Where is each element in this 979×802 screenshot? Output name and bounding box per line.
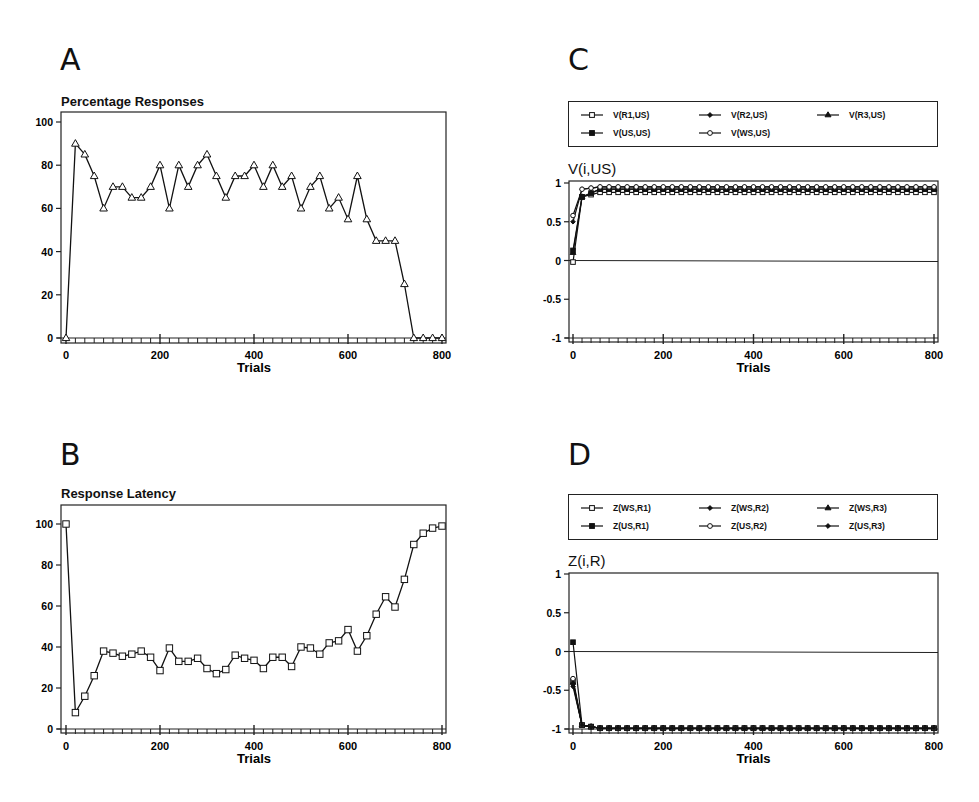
square-marker-icon	[279, 654, 285, 660]
triangle-marker-icon	[438, 334, 446, 341]
x-tick-label: 800	[925, 740, 943, 752]
circle-marker-icon	[841, 185, 846, 190]
square-marker-icon	[63, 521, 69, 527]
circle-marker-icon	[733, 185, 738, 190]
y-tick-label: -0.5	[543, 293, 561, 305]
data-line	[573, 642, 934, 728]
circle-marker-icon	[598, 185, 603, 190]
circle-marker-icon	[778, 185, 783, 190]
y-tick-label: 60	[41, 202, 53, 214]
x-tick-label: 200	[654, 349, 672, 361]
square-marker-icon	[213, 670, 219, 676]
circle-marker-icon	[742, 185, 747, 190]
triangle-marker-icon	[156, 161, 164, 168]
circle-marker-icon	[661, 185, 666, 190]
triangle-marker-icon	[391, 237, 399, 244]
square-marker-icon	[411, 541, 417, 547]
triangle-marker-icon	[90, 172, 98, 179]
circle-marker-icon	[878, 185, 883, 190]
square-marker-icon	[241, 655, 247, 661]
square-marker-icon	[382, 594, 388, 600]
square-marker-icon	[392, 604, 398, 610]
triangle-marker-icon	[269, 161, 277, 168]
square-marker-icon	[439, 523, 445, 529]
y-tick-label: -1	[552, 723, 561, 735]
chart-panel-d: 0200400600800Trials-1-0.500.51	[543, 568, 943, 766]
y-tick-label: 60	[41, 600, 53, 612]
square-marker-icon	[288, 663, 294, 669]
data-line	[573, 683, 934, 729]
square-marker-icon	[335, 638, 341, 644]
y-tick-label: 0	[47, 332, 53, 344]
plot-frame	[61, 505, 446, 733]
square-marker-icon	[298, 644, 304, 650]
data-line	[66, 524, 442, 713]
triangle-marker-icon	[213, 172, 221, 179]
triangle-marker-icon	[109, 183, 117, 190]
circle-marker-icon	[580, 187, 585, 192]
data-line	[573, 679, 934, 729]
circle-marker-icon	[914, 185, 919, 190]
y-tick-label: 0.5	[546, 216, 561, 228]
square-marker-icon	[82, 693, 88, 699]
y-tick-label: 0	[47, 723, 53, 735]
triangle-marker-icon	[344, 215, 352, 222]
circle-marker-icon	[923, 185, 928, 190]
circle-marker-icon	[887, 185, 892, 190]
square-marker-icon	[317, 651, 323, 657]
data-line	[573, 686, 934, 728]
circle-marker-icon	[571, 213, 576, 218]
square-marker-icon	[373, 611, 379, 617]
triangle-marker-icon	[119, 183, 127, 190]
circle-marker-icon	[589, 186, 594, 191]
triangle-marker-icon	[429, 334, 437, 341]
triangle-marker-icon	[419, 334, 427, 341]
circle-marker-icon	[706, 185, 711, 190]
triangle-marker-icon	[231, 172, 239, 179]
triangle-marker-icon	[175, 161, 183, 168]
y-tick-label: 0	[555, 255, 561, 267]
triangle-marker-icon	[316, 172, 324, 179]
circle-marker-icon	[625, 185, 630, 190]
triangle-marker-icon	[62, 334, 70, 341]
square-marker-icon	[147, 654, 153, 660]
circle-marker-icon	[814, 185, 819, 190]
square-marker-icon	[129, 651, 135, 657]
circle-marker-icon	[823, 185, 828, 190]
square-marker-icon	[232, 652, 238, 658]
triangle-marker-icon	[166, 204, 174, 211]
square-marker-icon	[307, 645, 313, 651]
circle-marker-icon	[652, 185, 657, 190]
y-tick-label: 20	[41, 289, 53, 301]
triangle-marker-icon	[401, 280, 409, 287]
square-marker-icon	[589, 191, 594, 196]
circle-marker-icon	[832, 185, 837, 190]
square-marker-icon	[166, 645, 172, 651]
triangle-marker-icon	[372, 237, 380, 244]
triangle-marker-icon	[363, 215, 371, 222]
x-tick-label: 0	[570, 740, 576, 752]
triangle-marker-icon	[260, 183, 268, 190]
circle-marker-icon	[688, 185, 693, 190]
square-marker-icon	[270, 654, 276, 660]
square-marker-icon	[138, 648, 144, 654]
x-tick-label: 600	[339, 740, 357, 752]
circle-marker-icon	[805, 185, 810, 190]
circle-marker-icon	[571, 676, 576, 681]
data-line	[573, 681, 934, 728]
y-tick-label: 100	[35, 518, 53, 530]
square-marker-icon	[176, 658, 182, 664]
circle-marker-icon	[905, 185, 910, 190]
square-marker-icon	[260, 665, 266, 671]
square-marker-icon	[354, 648, 360, 654]
y-tick-label: 0.5	[546, 607, 561, 619]
x-tick-label: 0	[63, 740, 69, 752]
triangle-marker-icon	[382, 237, 390, 244]
triangle-marker-icon	[203, 150, 211, 157]
plot-frame	[569, 573, 938, 733]
x-tick-label: 0	[63, 349, 69, 361]
x-tick-label: 600	[835, 349, 853, 361]
x-tick-label: 800	[433, 740, 451, 752]
square-marker-icon	[401, 576, 407, 582]
y-tick-label: -1	[552, 332, 561, 344]
